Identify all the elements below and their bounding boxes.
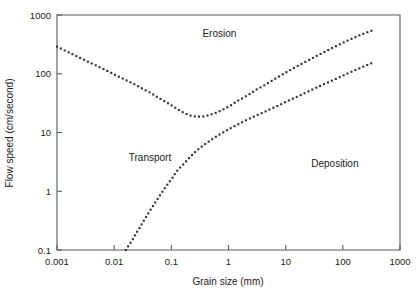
curve-dot	[268, 108, 270, 110]
curve-dot	[91, 62, 93, 64]
curve-dot	[354, 69, 356, 71]
curve-dot	[237, 123, 239, 125]
y-tick-label: 1000	[30, 10, 51, 21]
curve-dot	[241, 121, 243, 123]
curve-dot	[215, 136, 217, 138]
curve-dot	[319, 85, 321, 87]
curve-dot	[179, 166, 181, 168]
curve-dot	[362, 33, 364, 35]
curve-dot	[167, 102, 169, 104]
curve-dot	[56, 46, 58, 48]
curve-dot	[147, 212, 149, 214]
x-tick-label: 1	[226, 256, 231, 267]
curve-dot	[171, 104, 173, 106]
curve-dot	[171, 177, 173, 179]
curve-dot	[234, 102, 236, 104]
curve-dot	[350, 38, 352, 40]
curve-dot	[257, 114, 259, 116]
curve-dot	[308, 59, 310, 61]
curve-dot	[174, 173, 176, 175]
x-tick-label: 1000	[389, 256, 410, 267]
curve-dot	[304, 92, 306, 94]
curve-dot	[226, 106, 228, 108]
curve-dot	[208, 141, 210, 143]
curve-dot	[95, 64, 97, 66]
curve-dot	[198, 116, 200, 118]
curve-dot	[237, 99, 239, 101]
curve-dot	[211, 113, 213, 115]
curve-dot	[288, 99, 290, 101]
curve-dot	[362, 66, 364, 68]
curve-dot	[160, 98, 162, 100]
curve-dot	[253, 116, 255, 118]
region-label-transport: Transport	[129, 152, 172, 163]
curve-dot	[194, 151, 196, 153]
curve-dot	[152, 205, 154, 207]
curve-dot	[256, 88, 258, 90]
curve-dot	[68, 51, 70, 53]
curve-dot	[87, 61, 89, 63]
curve-dot	[327, 81, 329, 83]
chart-background	[0, 0, 420, 297]
curve-dot	[110, 72, 112, 74]
curve-dot	[197, 148, 199, 150]
curve-dot	[307, 90, 309, 92]
curve-dot	[296, 96, 298, 98]
curve-dot	[274, 78, 276, 80]
curve-dot	[339, 43, 341, 45]
curve-dot	[284, 101, 286, 103]
curve-dot	[169, 180, 171, 182]
curve-dot	[245, 95, 247, 97]
curve-dot	[311, 88, 313, 90]
curve-dot	[137, 85, 139, 87]
curve-dot	[222, 108, 224, 110]
curve-dot	[323, 51, 325, 53]
chart-figure: 0.0010.010.11101001000 0.11101001000 Ero…	[0, 0, 420, 297]
curve-dot	[327, 49, 329, 51]
curve-dot	[129, 242, 131, 244]
curve-dot	[370, 62, 372, 64]
curve-dot	[343, 74, 345, 76]
curve-dot	[271, 80, 273, 82]
x-tick-label: 10	[280, 256, 291, 267]
curve-dot	[176, 170, 178, 172]
curve-dot	[99, 66, 101, 68]
curve-dot	[138, 227, 140, 229]
curve-dot	[106, 70, 108, 72]
curve-dot	[174, 107, 176, 109]
curve-dot	[154, 201, 156, 203]
curve-dot	[194, 115, 196, 117]
curve-dot	[226, 129, 228, 131]
curve-dot	[60, 47, 62, 49]
curve-dot	[83, 59, 85, 61]
x-tick-label: 0.1	[165, 256, 178, 267]
curve-dot	[346, 72, 348, 74]
curve-dot	[300, 94, 302, 96]
curve-dot	[141, 223, 143, 225]
curve-dot	[304, 61, 306, 63]
curve-dot	[202, 115, 204, 117]
curve-dot	[218, 133, 220, 135]
y-tick-label: 0.1	[38, 245, 51, 256]
curve-dot	[182, 111, 184, 113]
curve-dot	[157, 198, 159, 200]
curve-dot	[285, 71, 287, 73]
y-axis-title: Flow speed (cm/second)	[4, 79, 15, 188]
curve-dot	[267, 82, 269, 84]
curve-dot	[186, 113, 188, 115]
curve-dot	[265, 110, 267, 112]
curve-dot	[163, 100, 165, 102]
curve-dot	[206, 114, 208, 116]
curve-dot	[230, 127, 232, 129]
curve-dot	[339, 76, 341, 78]
curve-dot	[118, 76, 120, 78]
curve-dot	[316, 55, 318, 57]
x-tick-label: 0.001	[45, 256, 69, 267]
curve-dot	[259, 86, 261, 88]
curve-dot	[145, 89, 147, 91]
curve-dot	[261, 112, 263, 114]
curve-dot	[350, 71, 352, 73]
curve-dot	[230, 104, 232, 106]
curve-dot	[292, 98, 294, 100]
curve-dot	[366, 31, 368, 33]
